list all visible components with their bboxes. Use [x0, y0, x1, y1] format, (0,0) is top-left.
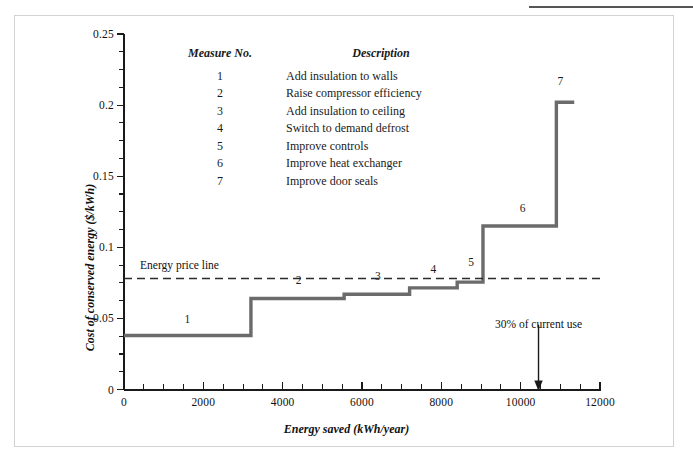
step-label-6: 6 — [520, 202, 526, 214]
legend-header-row: Measure No. Description — [172, 46, 476, 67]
step-label-7: 7 — [557, 75, 563, 87]
legend-measure-description: Improve heat exchanger — [268, 155, 476, 173]
legend-measure-description: Raise compressor efficiency — [268, 85, 476, 103]
legend-measure-number: 5 — [172, 137, 268, 155]
legend-row: 7Improve door seals — [172, 173, 476, 191]
legend-measure-description: Switch to demand defrost — [268, 120, 476, 138]
legend-measure-description: Add insulation to walls — [268, 67, 476, 85]
legend-row: 3Add insulation to ceiling — [172, 102, 476, 120]
measure-legend: Measure No. Description 1Add insulation … — [172, 46, 476, 190]
legend-row: 1Add insulation to walls — [172, 67, 476, 85]
figure-page: 02000400060008000100001200000.050.10.150… — [0, 0, 693, 464]
y-axis-title: Cost of conserved energy ($/kWh) — [83, 118, 98, 418]
legend-row: 6Improve heat exchanger — [172, 155, 476, 173]
step-label-1: 1 — [185, 313, 191, 325]
x-axis-title: Energy saved (kWh/year) — [0, 422, 693, 437]
legend-measure-description: Improve door seals — [268, 173, 476, 191]
legend-measure-number: 4 — [172, 120, 268, 138]
legend-row: 5Improve controls — [172, 137, 476, 155]
step-label-2: 2 — [296, 274, 302, 286]
step-label-4: 4 — [431, 263, 437, 275]
legend-body: 1Add insulation to walls2Raise compresso… — [172, 67, 476, 190]
annotation-arrow-head — [534, 381, 542, 392]
chart-plot-area: 02000400060008000100001200000.050.10.150… — [0, 0, 693, 464]
legend-measure-description: Add insulation to ceiling — [268, 102, 476, 120]
measure-legend-table: Measure No. Description 1Add insulation … — [172, 46, 476, 190]
legend-header-description: Description — [268, 46, 476, 67]
legend-measure-number: 7 — [172, 173, 268, 191]
legend-measure-number: 1 — [172, 67, 268, 85]
legend-row: 4Switch to demand defrost — [172, 120, 476, 138]
legend-header-measure: Measure No. — [172, 46, 268, 67]
legend-measure-number: 3 — [172, 102, 268, 120]
step-label-3: 3 — [375, 270, 381, 282]
legend-measure-number: 6 — [172, 155, 268, 173]
legend-measure-description: Improve controls — [268, 137, 476, 155]
legend-measure-number: 2 — [172, 85, 268, 103]
legend-row: 2Raise compressor efficiency — [172, 85, 476, 103]
current-use-annotation-label: 30% of current use — [495, 318, 582, 330]
y-axis-title-wrapper: Cost of conserved energy ($/kWh) — [40, 60, 64, 350]
step-label-5: 5 — [468, 256, 474, 268]
energy-price-line-label: Energy price line — [140, 259, 219, 271]
